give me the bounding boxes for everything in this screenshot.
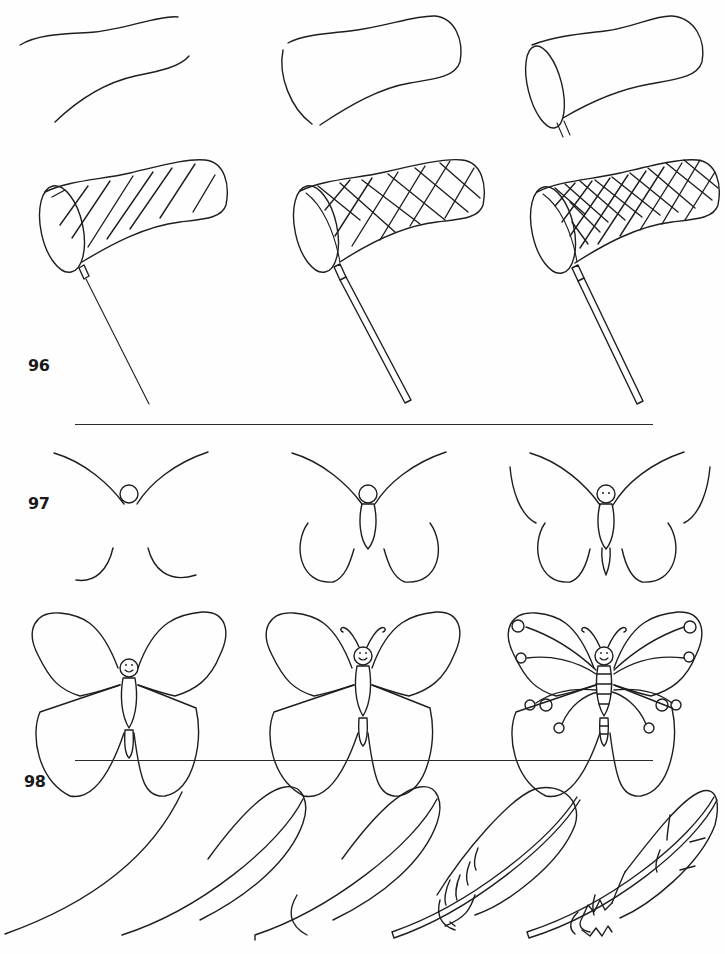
section-number-98: 98 — [24, 772, 45, 791]
net-step-1 — [20, 17, 189, 122]
net-step-5 — [286, 160, 484, 403]
butterfly-step-6 — [508, 612, 701, 797]
section-number-96: 96 — [28, 356, 49, 375]
feather-step-5 — [527, 791, 717, 938]
net-step-3 — [518, 16, 702, 137]
feather-step-4 — [392, 787, 580, 938]
butterfly-step-3 — [510, 452, 710, 582]
net-step-4 — [32, 160, 227, 404]
feather-step-3 — [255, 787, 440, 940]
section-number-97: 97 — [28, 494, 49, 513]
net-step-6 — [523, 160, 719, 404]
butterfly-step-1 — [54, 452, 208, 580]
butterfly-step-5 — [266, 612, 459, 797]
illustrations — [0, 0, 725, 954]
section-divider-97-98 — [75, 760, 653, 761]
butterfly-step-2 — [292, 452, 446, 582]
drawing-book-page: 96 97 98 — [0, 0, 725, 954]
butterfly-step-4 — [32, 612, 225, 797]
section-divider-96-97 — [75, 424, 653, 425]
feather-step-1 — [5, 792, 182, 934]
feather-step-2 — [122, 787, 306, 935]
net-step-2 — [282, 16, 461, 125]
